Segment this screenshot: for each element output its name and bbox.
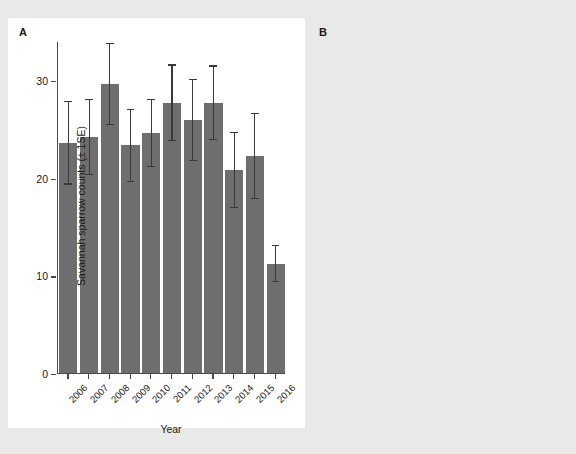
panel-a-bar-group [224,42,245,373]
panel-a-bars [58,42,285,373]
panel-a-bar-group [120,42,141,373]
panel-a-x-axis-title: Year [57,423,285,435]
panel-a-y-tick-label: 20 [36,173,48,185]
panel-a-x-tick-label: 2015 [253,382,276,405]
panel-a-x-tick [150,374,151,379]
panel-a-x-tick-label: 2007 [88,382,111,405]
panel-a-x-tick [233,374,234,379]
figure-container: A Year Savannah sparrow counts (± 1SE) 0… [0,0,576,454]
panel-a-plot-area: Year Savannah sparrow counts (± 1SE) 010… [57,42,285,374]
panel-a-error-bar [254,113,255,199]
panel-a-y-tick [51,276,56,277]
panel-a-x-tick-label: 2013 [212,382,235,405]
panel-a-x-tick [275,374,276,379]
panel-a-error-bar [234,132,235,208]
panel-a-y-tick [51,374,56,375]
panel-a-y-tick-label: 30 [36,75,48,87]
panel-a-error-bar [68,101,69,185]
panel-a-error-bar [109,43,110,125]
panel-a-bar[interactable] [142,133,160,373]
panel-a-x-tick [88,374,89,379]
panel-a-bar-group [141,42,162,373]
panel-a-bar-group [99,42,120,373]
panel-a-bar[interactable] [101,84,119,373]
panel-a-bar-group [182,42,203,373]
panel-a-x-tick [212,374,213,379]
panel-a-x-tick-label: 2016 [274,382,297,405]
panel-a-x-tick-label: 2011 [171,382,193,404]
panel-a-error-bar [89,99,90,175]
panel-a-y-tick [51,81,56,82]
panel-b: B * Legend Corn/Soybean CRP Year Land-co… [306,0,576,454]
panel-a-bar-group [162,42,183,373]
panel-a-x-tick [130,374,131,379]
panel-a-error-bar [130,109,131,181]
panel-a-bar[interactable] [204,103,222,373]
panel-a-error-bar [275,245,276,282]
panel-a-bar-group [203,42,224,373]
panel-a-x-tick-label: 2006 [67,382,90,405]
panel-a-error-bar [151,99,152,167]
panel-a-x-tick [171,374,172,379]
panel-a-bar-group [245,42,266,373]
panel-a-x-tick-label: 2009 [129,382,152,405]
panel-a-y-tick-label: 10 [36,270,48,282]
panel-a-y-axis-title: Savannah sparrow counts (± 1SE) [75,96,87,316]
panel-a-x-tick-label: 2010 [150,382,173,405]
panel-a-x-tick [192,374,193,379]
panel-a-error-bar [171,64,172,140]
panel-a-x-tick [67,374,68,379]
panel-a-bar-group [265,42,286,373]
panel-a-x-tick-label: 2008 [108,382,131,405]
panel-a-x-tick-label: 2012 [191,382,214,405]
panel-a-x-tick [254,374,255,379]
panel-a-error-bar [192,79,193,161]
panel-a-x-tick-label: 2014 [233,382,256,405]
panel-a-bar[interactable] [163,103,181,373]
panel-a-letter: A [19,26,27,38]
panel-a-y-tick [51,179,56,180]
panel-b-letter: B [319,26,327,38]
panel-a-error-bar [213,65,214,139]
panel-a-x-tick [109,374,110,379]
panel-a-y-tick-label: 0 [42,368,48,380]
panel-a: A Year Savannah sparrow counts (± 1SE) 0… [0,0,306,454]
